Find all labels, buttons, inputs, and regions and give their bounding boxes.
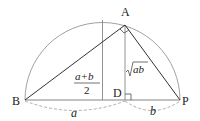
segment-a-label: a <box>71 106 77 120</box>
segment-b-label: b <box>150 104 156 118</box>
label-D: D <box>113 86 122 100</box>
sqrt-body: ab <box>133 63 145 75</box>
mean-denominator: 2 <box>84 84 90 96</box>
label-P: P <box>182 94 189 108</box>
label-B: B <box>12 94 20 108</box>
side-AB <box>25 25 125 100</box>
right-angle-mark-D <box>125 94 131 100</box>
mean-numerator: a+b <box>75 70 94 82</box>
label-A: A <box>121 5 130 19</box>
semicircle-diagram: A B P D a+b 2 ab a b <box>0 0 200 121</box>
right-angle-mark-A <box>120 29 129 33</box>
